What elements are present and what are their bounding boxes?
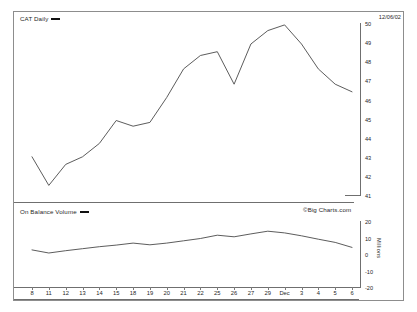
- x-axis-tick-label: 29: [265, 290, 271, 297]
- x-axis-line-lower: [14, 299, 359, 300]
- stock-chart: CAT Daily 12/06/02 50 49 48 47 46 45 44 …: [0, 0, 417, 312]
- x-axis-tick-label: 13: [79, 290, 85, 297]
- x-axis-tick-label: 11: [46, 290, 52, 297]
- x-axis-tick-label: 22: [197, 290, 203, 297]
- x-axis-tick-label: 14: [96, 290, 102, 297]
- x-axis-tick-label: 21: [180, 290, 186, 297]
- x-axis-tick-label: 5: [334, 290, 337, 297]
- x-axis-tick-label: 15: [113, 290, 119, 297]
- x-axis-tick-label: 18: [130, 290, 136, 297]
- x-axis-tick-label: 26: [231, 290, 237, 297]
- x-axis-tick-label: 27: [248, 290, 254, 297]
- x-axis-tick-label: 3: [300, 290, 303, 297]
- x-axis-tick-label: 19: [147, 290, 153, 297]
- volume-series-line: [32, 231, 352, 253]
- volume-series-plot: [0, 0, 417, 312]
- x-axis-tick-label: 6: [350, 290, 353, 297]
- x-axis-tick-label: 12: [62, 290, 68, 297]
- x-axis-tick-label: 20: [163, 290, 169, 297]
- x-axis-tick-label: 25: [214, 290, 220, 297]
- x-axis-tick-label: 4: [317, 290, 320, 297]
- x-axis-tick-label: Dec: [279, 290, 289, 297]
- x-axis-tick-label: 8: [30, 290, 33, 297]
